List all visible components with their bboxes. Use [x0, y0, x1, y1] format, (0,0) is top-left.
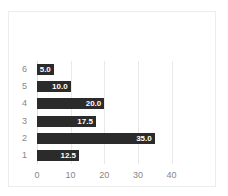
bar[interactable]: 10.0	[37, 81, 71, 92]
y-tick-label-1: 1	[22, 150, 27, 161]
x-tick-label-40: 40	[167, 168, 177, 182]
bar-value-label: 17.5	[77, 116, 93, 127]
x-tick-label-30: 30	[133, 168, 143, 182]
y-tick-label-5: 5	[22, 81, 27, 92]
bar-value-label: 5.0	[40, 64, 51, 75]
bar-value-label: 35.0	[136, 133, 152, 144]
y-tick-label-3: 3	[22, 116, 27, 127]
bar-row: 35.0	[37, 133, 185, 144]
bar-row: 20.0	[37, 98, 185, 109]
y-tick-label-6: 6	[22, 64, 27, 75]
bar[interactable]: 5.0	[37, 64, 54, 75]
plot-area: 5.010.020.017.535.012.5	[37, 61, 185, 164]
x-tick-label-10: 10	[66, 168, 76, 182]
bar-series: 5.010.020.017.535.012.5	[37, 61, 185, 164]
x-axis-tick-labels: 010203040	[37, 168, 185, 182]
bar[interactable]: 20.0	[37, 98, 104, 109]
bar-value-label: 10.0	[52, 81, 68, 92]
chart-container: 5.010.020.017.535.012.5 654321 010203040	[8, 11, 216, 187]
x-tick-label-20: 20	[99, 168, 109, 182]
x-tick-label-0: 0	[34, 168, 39, 182]
bar-row: 12.5	[37, 150, 185, 161]
y-axis-tick-labels: 654321	[9, 61, 33, 164]
y-tick-label-2: 2	[22, 133, 27, 144]
bar-value-label: 20.0	[86, 98, 102, 109]
bar[interactable]: 12.5	[37, 150, 79, 161]
bar-row: 5.0	[37, 64, 185, 75]
bar[interactable]: 35.0	[37, 133, 155, 144]
bar-row: 17.5	[37, 116, 185, 127]
bar-value-label: 12.5	[60, 150, 76, 161]
bar[interactable]: 17.5	[37, 116, 96, 127]
y-tick-label-4: 4	[22, 98, 27, 109]
bar-row: 10.0	[37, 81, 185, 92]
